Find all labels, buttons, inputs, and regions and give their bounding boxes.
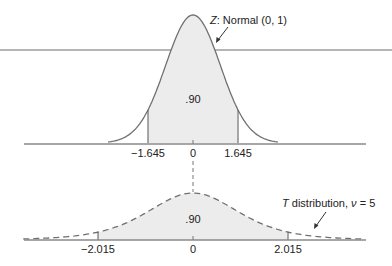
distribution-chart: .90 −1.645 0 1.645 Z: Normal (0, 1) .90 … <box>0 0 392 266</box>
t-panel: .90 −2.015 0 2.015 T distribution, ν = 5 <box>23 193 375 255</box>
t-tick-right: 2.015 <box>274 243 302 255</box>
normal-tick-zero: 0 <box>190 147 196 159</box>
normal-tick-left: −1.645 <box>131 147 165 159</box>
t-annotation: T distribution, ν = 5 <box>282 197 375 209</box>
normal-shaded-area <box>148 15 238 143</box>
t-tick-zero: 0 <box>190 243 196 255</box>
normal-panel: .90 −1.645 0 1.645 Z: Normal (0, 1) <box>24 14 366 159</box>
normal-area-label: .90 <box>185 93 200 105</box>
t-area-label: .90 <box>185 213 200 225</box>
normal-annotation: Z: Normal (0, 1) <box>209 14 287 26</box>
normal-tick-right: 1.645 <box>224 147 252 159</box>
normal-annotation-arrow <box>218 27 228 40</box>
t-tick-left: −2.015 <box>81 243 115 255</box>
t-annotation-arrow <box>316 212 326 226</box>
